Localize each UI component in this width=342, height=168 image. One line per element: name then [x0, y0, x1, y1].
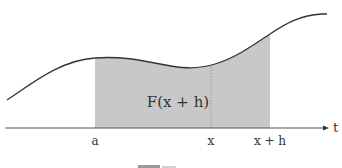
axis-label-t: t — [333, 120, 339, 135]
clipped-caption-fragment-2 — [162, 166, 176, 168]
tick-label-x-plus-h: x + h — [254, 134, 286, 148]
tick-label-x: x — [208, 134, 215, 148]
clipped-caption-fragment — [138, 165, 160, 168]
integral-area-diagram: t a x x + h F(x + h) — [0, 0, 342, 168]
region-label: F(x + h) — [147, 93, 209, 111]
tick-label-a: a — [91, 134, 98, 148]
shaded-area — [95, 34, 270, 128]
axis-arrow-icon — [323, 126, 329, 131]
